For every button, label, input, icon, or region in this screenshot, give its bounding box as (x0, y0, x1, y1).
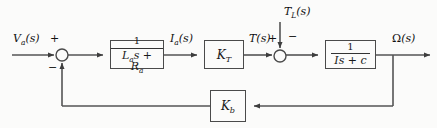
label-input-voltage: Va(s) (13, 33, 40, 44)
label-armature-current: Ia(s) (170, 33, 193, 44)
mechanical-numerator: 1 (331, 42, 369, 54)
label-load-torque: TL(s) (284, 6, 311, 17)
torque-summing-junction (274, 50, 286, 62)
mechanical-denominator: Is + c (331, 54, 369, 67)
armature-current-text: Ia(s) (170, 32, 193, 45)
input-summing-junction (56, 49, 68, 61)
mechanical-dynamics-block[interactable]: 1 Is + c (325, 40, 376, 69)
electrical-dynamics-block[interactable]: 1 Las + Ra (110, 40, 164, 69)
input-sum-minus-sign: − (48, 62, 57, 73)
electrical-numerator: 1 (111, 36, 163, 48)
input-voltage-text: Va(s) (13, 32, 40, 45)
back-emf-constant-label: Kb (221, 99, 235, 113)
electrical-denominator: Las + Ra (111, 49, 163, 73)
mechanical-transfer-function: 1 Is + c (331, 42, 369, 67)
torque-constant-label: KT (217, 48, 231, 62)
torque-sum-plus-sign: + (268, 33, 277, 44)
label-output-speed: Ω(s) (392, 33, 415, 44)
block-diagram-canvas: Va(s) + − Ia(s) T(s) + − TL(s) Ω(s) 1 La… (0, 0, 437, 128)
torque-constant-block[interactable]: KT (204, 40, 244, 69)
input-sum-plus-sign: + (50, 33, 59, 44)
electrical-transfer-function: 1 Las + Ra (111, 36, 163, 73)
load-torque-text: TL(s) (284, 5, 311, 18)
torque-sum-minus-sign: − (288, 31, 297, 42)
output-speed-text: Ω (392, 32, 401, 45)
back-emf-constant-block[interactable]: Kb (210, 90, 246, 122)
